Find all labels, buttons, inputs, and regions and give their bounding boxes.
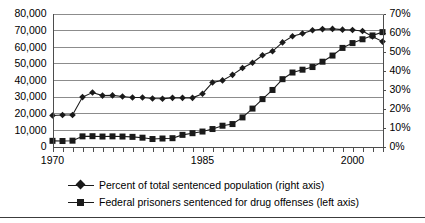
right-tick-label: 70% xyxy=(390,7,411,19)
chart-figure: 010,00020,00030,00040,00050,00060,00070,… xyxy=(0,0,425,223)
right-tick-label: 30% xyxy=(390,83,411,95)
data-series xyxy=(49,26,386,144)
legend-label-prisoners: Federal prisoners sentenced for drug off… xyxy=(99,196,359,209)
x-tick-label: 1970 xyxy=(41,154,65,166)
legend-item-prisoners: Federal prisoners sentenced for drug off… xyxy=(68,194,425,211)
left-tick-label: 70,000 xyxy=(14,24,46,36)
right-tick-label: 50% xyxy=(390,45,411,57)
series-percent xyxy=(49,26,386,119)
x-tick-label: 1985 xyxy=(191,154,215,166)
legend-key-diamond-icon xyxy=(68,179,94,193)
legend-item-percent: Percent of total sentenced population (r… xyxy=(68,177,425,194)
right-tick-label: 40% xyxy=(390,64,411,76)
left-axis-tick-labels: 010,00020,00030,00040,00050,00060,00070,… xyxy=(14,7,46,152)
x-tick-label: 2000 xyxy=(341,154,365,166)
left-tick-label: 30,000 xyxy=(14,90,46,102)
left-tick-label: 40,000 xyxy=(14,74,46,86)
right-tick-label: 10% xyxy=(390,121,411,133)
bottom-divider xyxy=(0,217,425,218)
legend-label-percent: Percent of total sentenced population (r… xyxy=(99,179,324,192)
legend-key-square-icon xyxy=(68,196,94,210)
right-axis-tick-labels: 0%10%20%30%40%50%60%70% xyxy=(390,7,411,152)
right-tick-label: 0% xyxy=(390,140,405,152)
left-tick-label: 0 xyxy=(41,140,47,152)
gridlines xyxy=(53,15,383,131)
line-chart-svg: 010,00020,00030,00040,00050,00060,00070,… xyxy=(0,0,425,175)
plot-area: 010,00020,00030,00040,00050,00060,00070,… xyxy=(0,0,425,175)
right-tick-label: 20% xyxy=(390,102,411,114)
left-tick-label: 20,000 xyxy=(14,107,46,119)
left-tick-label: 60,000 xyxy=(14,41,46,53)
chart-legend: Percent of total sentenced population (r… xyxy=(0,175,425,215)
left-tick-label: 50,000 xyxy=(14,57,46,69)
series-prisoners xyxy=(50,29,386,144)
right-tick-label: 60% xyxy=(390,26,411,38)
x-axis-tick-labels: 197019852000 xyxy=(41,154,365,166)
x-axis xyxy=(54,148,384,152)
left-tick-label: 80,000 xyxy=(14,7,46,19)
left-tick-label: 10,000 xyxy=(14,124,46,136)
